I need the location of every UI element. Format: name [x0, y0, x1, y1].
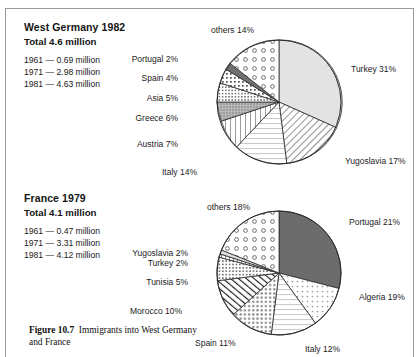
pie-label-asia: Asia 5% — [101, 93, 178, 103]
pie-label-austria: Austria 7% — [101, 139, 178, 149]
pie-chart-france — [205, 199, 353, 347]
pie-label-portugal: Portugal 21% — [349, 217, 400, 227]
pie-label-portugal: Portugal 2% — [91, 54, 178, 64]
panel-title-france: France 1979 — [24, 192, 100, 206]
pie-label-yugoslavia: Yugoslavia 2% — [86, 248, 188, 258]
pie-label-italy: Italy 14% — [162, 167, 197, 177]
pie-chart-west-germany — [205, 28, 353, 176]
pie-label-morocco: Morocco 10% — [86, 306, 182, 316]
figure-caption: Figure 10.7 Immigrants into West Germany… — [29, 325, 209, 348]
pie-label-spain: Spain 4% — [101, 73, 178, 83]
panel-subtitle-west-germany: Total 4.6 million — [24, 35, 125, 48]
pie-label-others: others 18% — [207, 202, 250, 212]
pie-label-yugoslavia: Yugoslavia 17% — [345, 156, 406, 166]
stat-line: 1961 — 0.47 million — [24, 225, 100, 237]
pie-label-italy: Italy 12% — [305, 344, 340, 354]
figure-frame: West Germany 1982 Total 4.6 million 1961… — [5, 8, 414, 357]
pie-label-algeria: Algeria 19% — [359, 292, 405, 302]
panel-subtitle-france: Total 4.1 million — [24, 206, 100, 219]
pie-label-others: others 14% — [211, 25, 254, 35]
panel-title-west-germany: West Germany 1982 — [24, 21, 125, 35]
figure-caption-label: Figure 10.7 — [29, 325, 74, 335]
pie-label-turkey: Turkey 31% — [351, 64, 396, 74]
pie-label-turkey: Turkey 2% — [96, 258, 188, 268]
pie-label-greece: Greece 6% — [101, 113, 178, 123]
pie-label-tunisia: Tunisia 5% — [96, 277, 188, 287]
